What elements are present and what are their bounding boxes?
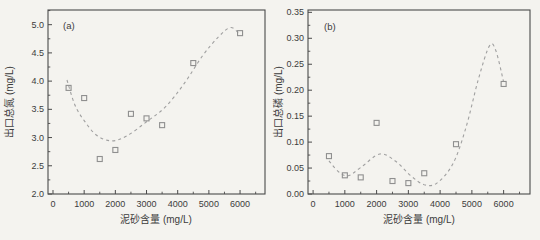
trend-curve xyxy=(67,27,240,140)
data-point-marker xyxy=(191,61,196,66)
y-tick-label: 4.5 xyxy=(31,48,44,58)
data-point-marker xyxy=(326,154,331,159)
x-tick-label: 4000 xyxy=(168,199,188,209)
panel-label: (a) xyxy=(63,20,75,31)
data-point-marker xyxy=(390,179,395,184)
y-tick-label: 0.20 xyxy=(286,85,304,95)
y-tick-label: 0.05 xyxy=(286,163,304,173)
y-tick-label: 0.25 xyxy=(286,59,304,69)
data-point-marker xyxy=(82,96,87,101)
data-point-marker xyxy=(97,157,102,162)
x-tick-label: 5000 xyxy=(462,199,482,209)
plot-frame xyxy=(48,10,265,194)
data-point-marker xyxy=(454,142,459,147)
y-tick-label: 3.5 xyxy=(31,104,44,114)
y-tick-label: 0.15 xyxy=(286,111,304,121)
y-tick-label: 2.5 xyxy=(31,161,44,171)
plot-frame xyxy=(308,10,530,194)
x-tick-label: 5000 xyxy=(199,199,219,209)
y-tick-label: 0.35 xyxy=(286,7,304,17)
x-tick-label: 1000 xyxy=(74,199,94,209)
x-tick-label: 3000 xyxy=(398,199,418,209)
x-tick-label: 0 xyxy=(50,199,55,209)
y-tick-label: 5.0 xyxy=(31,20,44,30)
x-tick-label: 0 xyxy=(311,199,316,209)
data-point-marker xyxy=(144,116,149,121)
x-axis-label: 泥砂含量 (mg/L) xyxy=(383,213,455,225)
data-point-marker xyxy=(422,171,427,176)
x-tick-label: 3000 xyxy=(137,199,157,209)
y-tick-label: 0.30 xyxy=(286,33,304,43)
y-tick-label: 2.0 xyxy=(31,189,44,199)
data-point-marker xyxy=(128,111,133,116)
data-point-marker xyxy=(406,181,411,186)
y-tick-label: 4.0 xyxy=(31,76,44,86)
data-point-marker xyxy=(238,31,243,36)
data-point-marker xyxy=(358,175,363,180)
y-axis-label: 出口总氮 (mg/L) xyxy=(3,66,15,138)
y-tick-label: 3.0 xyxy=(31,133,44,143)
panel-a-scatter-plot: 01000200030004000500060002.02.53.03.54.0… xyxy=(0,0,270,240)
panel-label: (b) xyxy=(324,21,336,32)
dual-scatter-figure: 01000200030004000500060002.02.53.03.54.0… xyxy=(0,0,540,240)
panel-b-scatter-plot: 01000200030004000500060000.000.050.100.1… xyxy=(270,0,540,240)
x-tick-label: 1000 xyxy=(335,199,355,209)
y-tick-label: 0.10 xyxy=(286,137,304,147)
x-tick-label: 2000 xyxy=(367,199,387,209)
x-tick-label: 6000 xyxy=(494,199,514,209)
data-point-marker xyxy=(501,81,506,86)
x-axis-label: 泥砂含量 (mg/L) xyxy=(120,213,192,225)
data-point-marker xyxy=(374,120,379,125)
y-tick-label: 0.00 xyxy=(286,189,304,199)
x-tick-label: 4000 xyxy=(430,199,450,209)
x-tick-label: 6000 xyxy=(230,199,250,209)
data-point-marker xyxy=(113,147,118,152)
trend-curve xyxy=(329,44,504,186)
x-tick-label: 2000 xyxy=(105,199,125,209)
data-point-marker xyxy=(160,123,165,128)
y-axis-label: 出口总磷 (mg/L) xyxy=(272,66,284,138)
